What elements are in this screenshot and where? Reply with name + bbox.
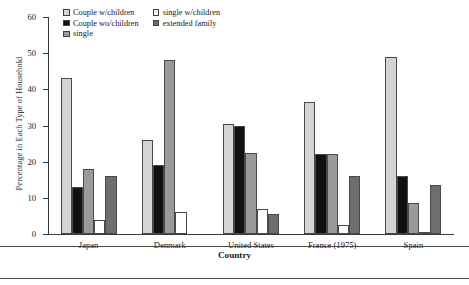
bar xyxy=(83,169,94,234)
bar xyxy=(234,126,245,235)
plot-area: 6050403020100 JapanDenmarkUnited StatesF… xyxy=(48,17,454,234)
y-tick-label: 40 xyxy=(27,85,36,94)
bar xyxy=(430,185,441,234)
bar xyxy=(142,140,153,234)
legend-item: single w/children xyxy=(153,8,220,17)
y-tick-60: 60 xyxy=(43,17,48,18)
bar-group-united-states xyxy=(223,17,279,234)
bar xyxy=(72,187,83,234)
x-axis-line xyxy=(48,234,454,235)
bar xyxy=(257,209,268,234)
bar xyxy=(338,225,349,234)
bar-group-japan xyxy=(61,17,117,234)
bar xyxy=(153,165,164,234)
x-tick-label: France (1975) xyxy=(308,240,356,250)
y-axis-title: Percentage in Each Type of Household xyxy=(15,14,24,234)
bar xyxy=(304,102,315,234)
bar-group-france-1975 xyxy=(304,17,360,234)
swatch-black-icon xyxy=(63,20,70,27)
y-tick-label: 30 xyxy=(27,121,36,130)
x-tick-label: Japan xyxy=(79,240,99,250)
bar xyxy=(349,176,360,234)
x-tick-label: Denmark xyxy=(154,240,186,250)
swatch-white-icon xyxy=(153,9,160,16)
bar xyxy=(268,214,279,234)
legend-label: extended family xyxy=(163,19,217,28)
y-tick-label: 10 xyxy=(27,194,36,203)
bar xyxy=(164,60,175,234)
legend-item: Couple wo/children xyxy=(63,19,139,28)
legend-label: single w/children xyxy=(163,8,220,17)
bar-group-spain xyxy=(385,17,441,234)
x-tick-label: United States xyxy=(228,240,274,250)
swatch-medium-gray-icon xyxy=(63,31,70,38)
x-axis-title: Country xyxy=(0,250,469,260)
y-tick-label: 50 xyxy=(27,49,36,58)
y-tick-30: 30 xyxy=(43,126,48,127)
bar-chart-figure: Percentage in Each Type of Household 605… xyxy=(0,0,469,285)
y-tick-label: 60 xyxy=(27,13,36,22)
bar xyxy=(327,154,338,234)
bar xyxy=(397,176,408,234)
bar xyxy=(61,78,72,234)
bar xyxy=(245,153,256,234)
y-tick-0: 0 xyxy=(43,234,48,235)
bar xyxy=(315,154,326,234)
chart-legend: Couple w/childrensingle w/childrenCouple… xyxy=(63,8,220,38)
y-tick-40: 40 xyxy=(43,89,48,90)
legend-label: Couple w/children xyxy=(73,8,135,17)
x-tick-label: Spain xyxy=(404,240,424,250)
y-tick-label: 0 xyxy=(32,230,36,239)
horizontal-rule-top xyxy=(0,246,469,247)
swatch-dark-gray-icon xyxy=(153,20,160,27)
y-tick-label: 20 xyxy=(27,157,36,166)
bar-group-denmark xyxy=(142,17,187,234)
y-axis-line xyxy=(48,17,49,234)
bar xyxy=(385,57,396,234)
bar xyxy=(419,232,430,234)
swatch-light-gray-icon xyxy=(63,9,70,16)
legend-label: single xyxy=(73,29,93,38)
legend-label: Couple wo/children xyxy=(73,19,139,28)
legend-item: extended family xyxy=(153,19,220,28)
y-tick-10: 10 xyxy=(43,198,48,199)
legend-item: Couple w/children xyxy=(63,8,139,17)
bar xyxy=(223,124,234,234)
bar xyxy=(408,203,419,234)
bar xyxy=(175,212,186,234)
y-tick-20: 20 xyxy=(43,162,48,163)
bar xyxy=(105,176,116,234)
horizontal-rule-bottom xyxy=(0,278,469,279)
bar xyxy=(94,220,105,234)
y-tick-50: 50 xyxy=(43,53,48,54)
legend-item: single xyxy=(63,29,139,38)
